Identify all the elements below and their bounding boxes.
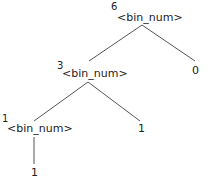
tree-leaf-bottom: 1 [31, 167, 38, 178]
edge-mid-to-left [34, 82, 88, 121]
tree-leaf-root-right: 0 [192, 65, 199, 76]
edge-root-to-left [89, 25, 142, 61]
node-label-mid: <bin_num> [62, 68, 128, 79]
node-label-root: <bin_num> [117, 12, 183, 23]
tree-edges [0, 0, 211, 182]
node-label-bottom: <bin_num> [7, 123, 73, 134]
tree-leaf-mid-right: 1 [138, 123, 145, 134]
edge-root-to-right [142, 25, 195, 61]
edge-mid-to-right [88, 82, 140, 121]
